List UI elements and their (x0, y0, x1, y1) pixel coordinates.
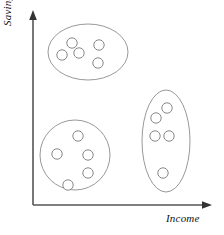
cluster-outline-bottom-left (40, 120, 110, 190)
data-point (162, 103, 172, 113)
data-point (83, 168, 93, 178)
data-point (158, 168, 168, 178)
plot-area (0, 0, 224, 235)
clustering-diagram: Savings Income (0, 0, 224, 235)
cluster-top-left (48, 24, 128, 80)
cluster-bottom-left (40, 120, 110, 190)
x-axis-arrow-icon (202, 201, 212, 209)
data-point (94, 40, 104, 50)
x-axis-label: Income (166, 212, 200, 224)
cluster-right (142, 90, 190, 192)
data-point (73, 131, 83, 141)
data-point (63, 180, 73, 190)
y-axis-arrow-icon (29, 10, 37, 20)
data-point (150, 131, 160, 141)
data-point (52, 149, 62, 159)
data-point (93, 58, 103, 68)
data-point (164, 131, 174, 141)
data-point (74, 48, 84, 58)
data-point (83, 150, 93, 160)
data-point (151, 113, 161, 123)
data-point (57, 50, 67, 60)
y-axis-label: Savings (1, 0, 13, 26)
data-point (67, 38, 77, 48)
